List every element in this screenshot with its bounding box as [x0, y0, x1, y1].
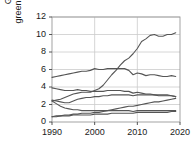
- x-tick-label: 2010: [125, 127, 149, 137]
- y-tick-label: 0: [20, 116, 46, 126]
- gridlines: [52, 17, 180, 122]
- y-tick-label: 6: [20, 64, 46, 74]
- x-tick-label: 1990: [40, 127, 64, 137]
- x-tick-label: 2000: [83, 127, 107, 137]
- x-tick-label: 2020: [168, 127, 191, 137]
- y-tick-label: 2: [20, 99, 46, 109]
- y-tick-label: 10: [20, 29, 46, 39]
- chart-figure: Global greenhouse gasemissions ( Gt CO2)…: [0, 0, 191, 149]
- y-tick-label: 12: [20, 11, 46, 21]
- y-tick-label: 8: [20, 46, 46, 56]
- y-tick-label: 4: [20, 81, 46, 91]
- data-line: [52, 98, 176, 116]
- data-line: [52, 112, 176, 117]
